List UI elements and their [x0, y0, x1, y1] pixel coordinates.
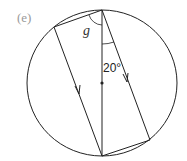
chord-lowerright-bottom [102, 140, 150, 156]
angle-20-arc [102, 42, 114, 44]
circle-theorem-diagram: (e) g 20° [0, 0, 187, 161]
angle-g-label: g [83, 23, 90, 38]
angle-20-label: 20° [103, 61, 121, 75]
chord-top-lowerright [102, 10, 150, 140]
part-label: (e) [17, 10, 31, 25]
chord-top-upperleft [54, 10, 102, 27]
angle-g-arc [89, 15, 102, 25]
center-point [100, 81, 103, 84]
